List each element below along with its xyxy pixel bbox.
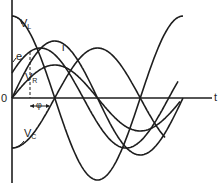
vc-label: VC (24, 128, 36, 140)
e-label: e (16, 51, 22, 62)
t-axis-label: t (214, 92, 217, 103)
vr-label: VR (25, 72, 37, 84)
i-label: i (62, 42, 64, 53)
phi-arrow-left-head (30, 104, 34, 108)
origin-label: 0 (1, 93, 7, 104)
vl-label: VL (20, 18, 31, 30)
phi-label: φ (36, 101, 42, 110)
waveform-plot (0, 0, 222, 194)
